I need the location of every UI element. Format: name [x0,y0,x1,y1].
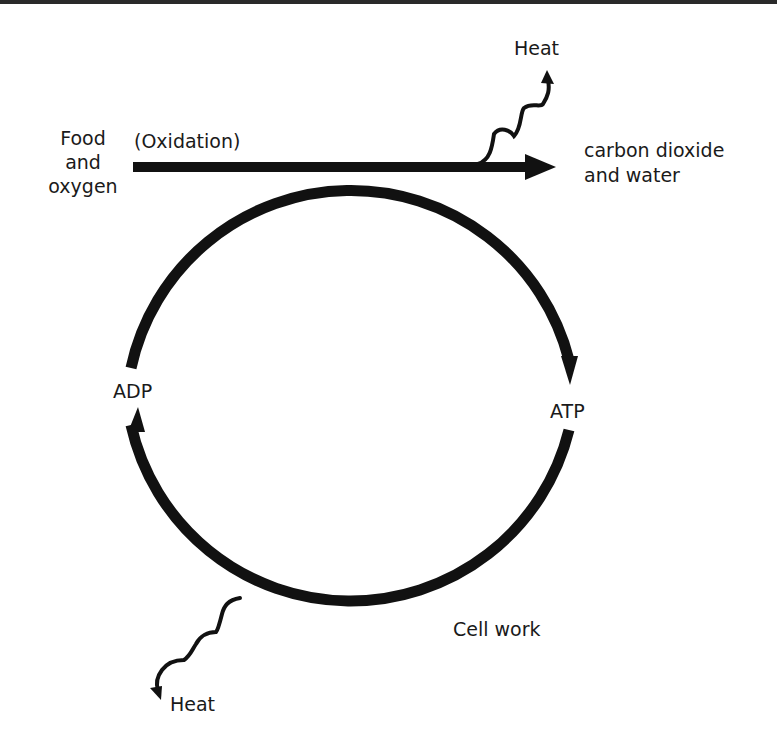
atp-label: ATP [550,399,585,423]
input-line-food: Food [30,126,136,150]
heat-label-bottom: Heat [170,692,215,716]
input-label: Food and oxygen [30,126,136,198]
arrowhead-to-atp [561,356,578,385]
output-line-carbon-dioxide: carbon dioxide [584,138,724,163]
output-line-water: and water [584,163,724,188]
heat-label-top: Heat [514,36,559,60]
cell-work-label: Cell work [453,617,541,641]
heat-wave-top [478,80,549,164]
heat-wave-bottom [157,598,240,690]
adp-label: ADP [113,379,152,403]
cycle-arc-top [131,190,569,368]
oxidation-arrow [133,154,556,180]
output-label: carbon dioxide and water [584,138,724,188]
atp-cycle-diagram [0,0,777,746]
arrowhead-to-adp [128,407,145,432]
heat-arrowhead-top [541,70,554,84]
heat-arrowhead-bottom [150,686,162,700]
oxidation-label: (Oxidation) [134,129,240,153]
cycle-arc-bottom [131,425,569,601]
input-line-and: and [30,150,136,174]
input-line-oxygen: oxygen [30,174,136,198]
cycle-circle [131,190,569,600]
